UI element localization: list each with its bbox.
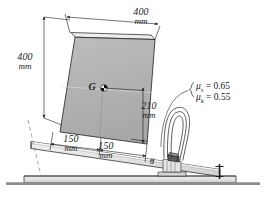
dimension-base-left-unit: mm bbox=[56, 144, 86, 153]
mu-kinetic-subscript: k bbox=[201, 97, 204, 104]
ground-slab bbox=[6, 176, 260, 184]
dimension-cg-height-unit: mm bbox=[134, 111, 164, 120]
friction-brace bbox=[189, 83, 194, 97]
mu-static-subscript: s bbox=[201, 86, 204, 93]
angle-theta-arc bbox=[151, 168, 153, 177]
dimension-base-right-unit: mm bbox=[91, 151, 121, 160]
center-of-gravity-label: G bbox=[86, 82, 98, 92]
dimension-left-height-unit: mm bbox=[8, 62, 42, 71]
angle-theta-label: θ bbox=[146, 157, 158, 166]
mu-kinetic-value: = 0.55 bbox=[206, 92, 230, 102]
ramp-handle bbox=[164, 107, 190, 161]
mu-static-value: = 0.65 bbox=[206, 81, 230, 91]
kinetic-friction-label: μk = 0.55 bbox=[196, 93, 230, 105]
dimension-top-width-unit: mm bbox=[124, 17, 158, 26]
